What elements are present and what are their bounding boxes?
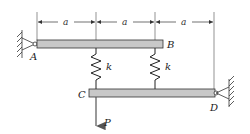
dimension-label-2: a	[122, 17, 127, 27]
beam-spring-diagram: a a a A B k k C D P	[0, 0, 250, 134]
pin-a	[33, 42, 37, 46]
load-label-p: P	[103, 117, 111, 128]
point-label-b: B	[166, 39, 174, 50]
dimension-label-3: a	[181, 17, 186, 27]
spring-2	[150, 48, 160, 89]
spring-label-1: k	[106, 61, 112, 72]
bar-ab	[37, 40, 163, 48]
bar-cd	[89, 89, 215, 97]
point-label-c: C	[78, 89, 86, 100]
point-label-a: A	[29, 51, 37, 62]
spring-label-2: k	[165, 61, 171, 72]
spring-1	[91, 48, 101, 89]
dimension-label-1: a	[63, 17, 68, 27]
point-label-d: D	[209, 102, 218, 113]
